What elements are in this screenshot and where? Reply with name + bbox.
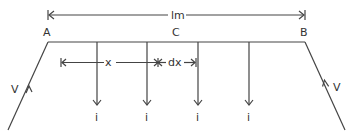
x-dimension: x: [61, 56, 158, 69]
length-label: lm: [171, 9, 185, 22]
point-b-label: B: [300, 26, 308, 39]
right-voltage-label: V: [333, 81, 341, 94]
tap-current-label: i: [247, 111, 250, 124]
dx-dimension: dx: [158, 56, 196, 69]
point-a-label: A: [43, 26, 51, 39]
tap-current-label: i: [95, 111, 98, 124]
load-tap-3: i: [194, 42, 202, 124]
load-tap-1: i: [93, 42, 101, 124]
length-dimension: lm: [48, 9, 305, 22]
distributor-diagram: lm A C B V V x dx i i: [0, 0, 352, 138]
dx-label: dx: [168, 56, 182, 69]
x-label: x: [105, 56, 112, 69]
load-tap-2: i: [143, 42, 151, 124]
load-tap-4: i: [245, 42, 253, 124]
tap-current-label: i: [145, 111, 148, 124]
tap-current-label: i: [196, 111, 199, 124]
left-voltage-label: V: [11, 83, 19, 96]
point-c-label: C: [172, 26, 180, 39]
